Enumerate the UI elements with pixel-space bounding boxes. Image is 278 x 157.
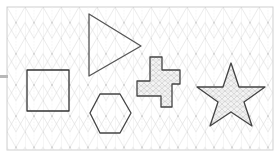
drawing-canvas[interactable]: [0, 0, 278, 157]
resize-handle[interactable]: [0, 75, 8, 78]
drawing-stage: [0, 0, 278, 157]
